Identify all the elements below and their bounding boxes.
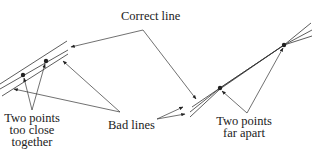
bad-lines-label: Bad lines [108,118,155,132]
correct-line-left [0,50,68,89]
bad-line-lower-left [2,54,68,96]
close-point-2 [44,59,48,63]
far-point-2 [282,43,286,47]
arrow-to-right-bad-upper [157,107,183,119]
close-points-label-3: together [12,135,54,149]
arrow-to-close-point-1 [24,78,32,110]
arrow-to-left-correct [71,30,143,47]
arrow-to-right-bad-lower [157,114,185,119]
arrow-to-left-bad-upper [63,61,120,112]
far-point-1 [218,86,222,90]
correct-line-arrows [71,30,196,99]
arrow-to-far-point-1 [222,91,247,113]
bad-line-upper-left [0,41,67,84]
arrow-to-close-point-2 [32,64,45,110]
close-point-1 [21,73,25,77]
right-line-cluster [190,23,312,117]
left-line-cluster [0,41,68,96]
correct-line-label: Correct line [121,9,181,23]
bad-line-lower-right [190,36,312,117]
arrow-to-right-correct [143,30,196,99]
diagram-canvas: Correct line Bad lines Two points too cl… [0,0,323,154]
far-points-label-2: far apart [223,126,266,140]
